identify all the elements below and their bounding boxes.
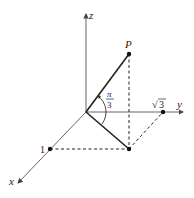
y-tick-radical: √ bbox=[152, 99, 158, 110]
angle-arc bbox=[98, 96, 106, 124]
point-y-sqrt3 bbox=[161, 110, 165, 114]
x-axis-label: x bbox=[8, 175, 14, 187]
z-axis-label: z bbox=[88, 9, 94, 21]
segment-O-projection bbox=[86, 112, 129, 149]
angle-denominator: 3 bbox=[107, 100, 112, 110]
point-projection bbox=[127, 147, 131, 151]
x-axis bbox=[18, 112, 86, 183]
point-x-1 bbox=[48, 147, 52, 151]
diagram-svg: z y x P 1 √ 3 π 3 bbox=[0, 0, 194, 198]
x-tick-label: 1 bbox=[40, 144, 45, 155]
point-P-label: P bbox=[124, 38, 132, 50]
angle-numerator: π bbox=[107, 89, 112, 99]
point-P bbox=[127, 52, 131, 56]
y-tick-radicand: 3 bbox=[159, 99, 164, 110]
3d-coordinate-diagram: z y x P 1 √ 3 π 3 bbox=[0, 0, 194, 198]
dashed-y-projection bbox=[129, 112, 163, 149]
y-axis-label: y bbox=[176, 98, 182, 110]
